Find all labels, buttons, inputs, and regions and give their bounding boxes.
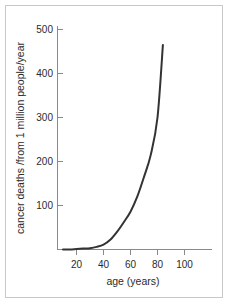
chart-figure: 500 400 300 200 100 20 40 60 80 100 age …: [0, 0, 229, 304]
cancer-deaths-curve: [63, 45, 163, 250]
x-tick-label-60: 60: [125, 259, 137, 270]
x-tick-label-100: 100: [176, 259, 193, 270]
x-tick-label-40: 40: [98, 259, 110, 270]
y-tick-label-200: 200: [36, 156, 53, 167]
y-axis-title: cancer deaths /from 1 million people/yea…: [14, 41, 26, 234]
x-tick-label-20: 20: [71, 259, 83, 270]
y-tick-label-100: 100: [36, 200, 53, 211]
y-tick-label-400: 400: [36, 68, 53, 79]
x-axis-title: age (years): [106, 275, 159, 287]
y-tick-label-500: 500: [36, 24, 53, 35]
cancer-deaths-line-chart: 500 400 300 200 100 20 40 60 80 100 age …: [0, 0, 229, 304]
y-tick-label-300: 300: [36, 112, 53, 123]
x-tick-label-80: 80: [152, 259, 164, 270]
